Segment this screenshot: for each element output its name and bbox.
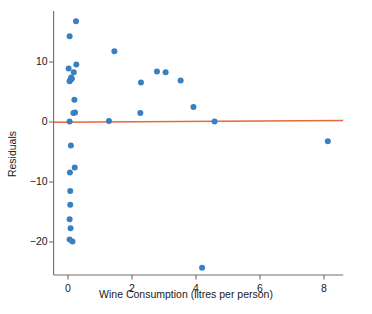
chart-canvas	[0, 0, 372, 314]
scatter-point	[178, 78, 184, 84]
x-axis-title: Wine Consumption (litres per person)	[0, 288, 372, 300]
scatter-point	[71, 97, 77, 103]
reference-line-group	[54, 121, 344, 123]
scatter-point	[71, 69, 77, 75]
scatter-point	[137, 110, 143, 116]
y-axis-title: Residuals	[6, 124, 18, 184]
scatter-point	[66, 66, 72, 72]
scatter-point	[106, 118, 112, 124]
data-points-group	[66, 18, 331, 271]
scatter-point	[72, 165, 78, 171]
axes-group	[49, 11, 343, 280]
residual-scatter-chart: 100−10−20 02468 Wine Consumption (litres…	[0, 0, 372, 314]
scatter-point	[69, 238, 75, 244]
scatter-point	[73, 61, 79, 67]
scatter-point	[67, 202, 73, 208]
scatter-point	[111, 48, 117, 54]
scatter-point	[67, 188, 73, 194]
scatter-point	[212, 118, 218, 124]
y-axis-tick-label: 10	[6, 55, 48, 67]
plot-area	[0, 0, 372, 314]
scatter-point	[70, 110, 76, 116]
scatter-point	[199, 265, 205, 271]
scatter-point	[73, 18, 79, 24]
scatter-point	[190, 104, 196, 110]
y-axis-tick-label: −20	[6, 235, 48, 247]
scatter-point	[154, 69, 160, 75]
scatter-point	[68, 142, 74, 148]
scatter-point	[68, 225, 74, 231]
scatter-point	[67, 78, 73, 84]
scatter-point	[67, 169, 73, 175]
scatter-point	[325, 138, 331, 144]
zero-reference-line	[54, 121, 344, 123]
scatter-point	[163, 69, 169, 75]
scatter-point	[67, 33, 73, 39]
scatter-point	[67, 118, 73, 124]
scatter-point	[67, 216, 73, 222]
scatter-point	[138, 79, 144, 85]
